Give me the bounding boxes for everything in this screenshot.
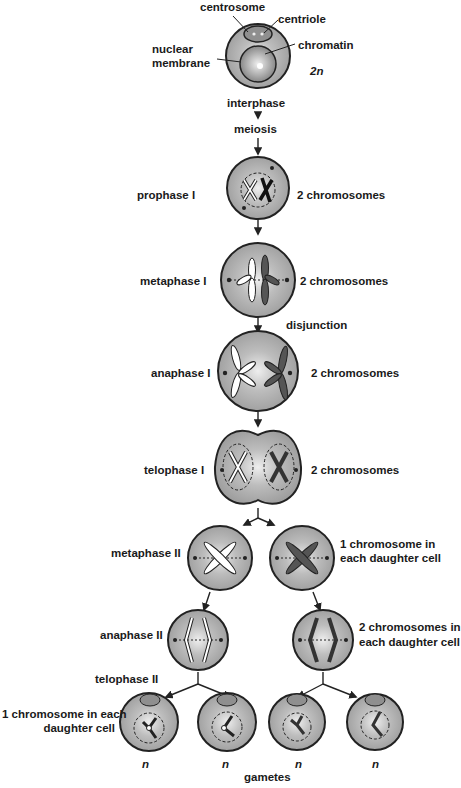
telophase-2-note-line2: daughter cell <box>2 721 115 735</box>
metaphase-1-cell <box>221 243 295 317</box>
ploidy-2n-label: 2n <box>310 64 323 78</box>
anaphase-2-left-cell <box>168 610 228 670</box>
telophase-1-note: 2 chromosomes <box>311 463 399 477</box>
disjunction-label: disjunction <box>286 318 347 332</box>
gamete-2-ploidy: n <box>222 757 229 771</box>
prophase-1-note: 2 chromosomes <box>297 188 385 202</box>
anaphase-1-label: anaphase I <box>151 366 210 380</box>
anaphase-1-cell <box>218 331 298 411</box>
metaphase-2-note-line1: 1 chromosome in <box>340 537 435 551</box>
gamete-cell-3 <box>269 694 325 750</box>
anaphase-1-note: 2 chromosomes <box>311 366 399 380</box>
metaphase-2-note-line2: each daughter cell <box>340 551 441 565</box>
gametes-label: gametes <box>244 770 291 784</box>
metaphase-2-right-cell <box>270 526 334 590</box>
anaphase-2-label: anaphase II <box>100 628 163 642</box>
telophase-1-label: telophase I <box>144 463 204 477</box>
anaphase-2-note-line1: 2 chromosomes in <box>359 620 461 634</box>
metaphase-2-label: metaphase II <box>111 546 181 560</box>
anaphase-2-right-cell <box>293 610 353 670</box>
telophase-2-note-line1: 1 chromosome in each <box>2 707 115 721</box>
chromatin-label: chromatin <box>298 38 354 52</box>
nuclear-membrane-label-2: membrane <box>152 56 210 70</box>
gamete-cell-2 <box>198 693 256 751</box>
gamete-4-ploidy: n <box>372 757 379 771</box>
prophase-1-cell <box>227 157 289 219</box>
interphase-cell <box>217 16 295 88</box>
interphase-label: interphase <box>227 96 285 110</box>
centriole-label: centriole <box>278 12 326 26</box>
metaphase-1-label: metaphase I <box>140 274 206 288</box>
prophase-1-label: prophase I <box>137 188 195 202</box>
meiosis-label: meiosis <box>234 122 277 136</box>
gamete-1-ploidy: n <box>142 757 149 771</box>
telophase-2-label: telophase II <box>95 672 158 686</box>
nuclear-membrane-label-1: nuclear <box>152 42 193 56</box>
gamete-cell-1 <box>120 693 178 751</box>
gamete-cell-4 <box>347 694 403 750</box>
gamete-3-ploidy: n <box>295 757 302 771</box>
metaphase-2-left-cell <box>188 526 252 590</box>
centrosome-label: centrosome <box>200 0 265 14</box>
anaphase-2-note-line2: each daughter cell <box>359 635 460 649</box>
metaphase-1-note: 2 chromosomes <box>300 274 388 288</box>
telophase-1-cell <box>215 431 301 504</box>
